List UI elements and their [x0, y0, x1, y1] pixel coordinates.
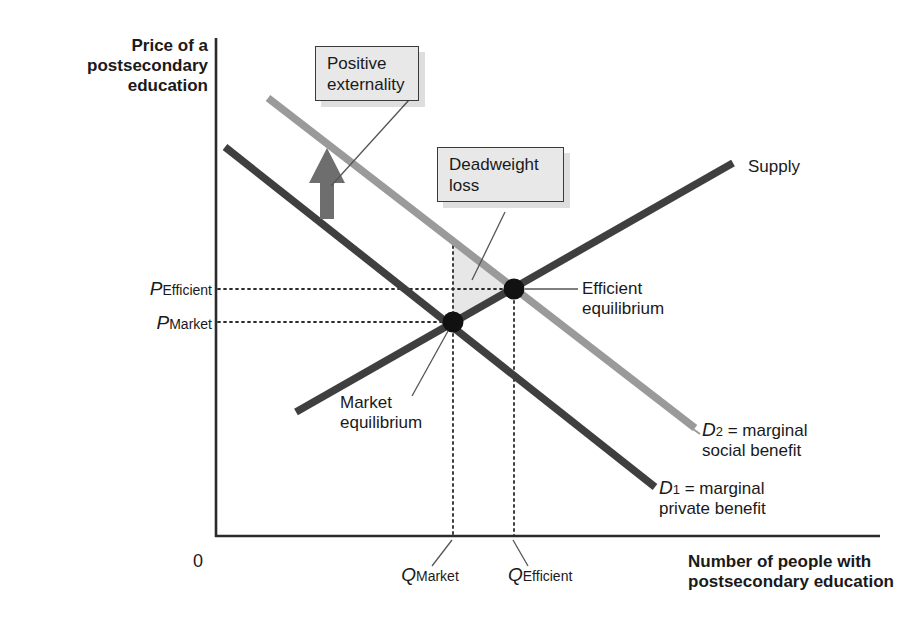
price-market-label: PMarket — [80, 312, 212, 334]
efficient-equilibrium-label: Efficient equilibrium — [582, 279, 752, 319]
price-efficient-label: PEfficient — [80, 278, 212, 300]
demand-private-subscript: 1 — [673, 482, 680, 497]
price-efficient-subscript: Efficient — [162, 282, 212, 298]
market-equilibrium-dot[interactable] — [443, 312, 464, 333]
quantity-market-symbol: Q — [401, 564, 416, 585]
quantity-market-leader — [432, 540, 452, 566]
positive-externality-arrow — [309, 148, 345, 219]
externality-diagram: Price of a postsecondary education Numbe… — [0, 0, 916, 620]
price-efficient-symbol: P — [150, 278, 163, 299]
quantity-market-subscript: Market — [416, 568, 459, 584]
origin-label: 0 — [193, 551, 203, 572]
quantity-efficient-symbol: Q — [508, 564, 523, 585]
quantity-efficient-label: QEfficient — [508, 564, 658, 586]
market-equilibrium-label: Market equilibrium — [340, 393, 500, 433]
demand-social-subscript: 2 — [716, 424, 723, 439]
positive-externality-callout: Positive externality — [315, 46, 419, 101]
quantity-market-label: QMarket — [360, 564, 500, 586]
deadweight-loss-callout: Deadweight loss — [437, 147, 564, 202]
demand-social-label: D2 = marginal social benefit — [702, 419, 902, 461]
quantity-efficient-leader — [513, 540, 528, 566]
y-axis-title: Price of a postsecondary education — [60, 36, 208, 96]
demand-private-symbol: D — [659, 477, 673, 498]
demand-private-label: D1 = marginal private benefit — [659, 477, 879, 519]
efficient-equilibrium-dot[interactable] — [504, 279, 525, 300]
quantity-efficient-subscript: Efficient — [523, 568, 573, 584]
demand-social-symbol: D — [702, 419, 716, 440]
supply-curve-label: Supply — [748, 157, 800, 177]
x-axis-title: Number of people with postsecondary educ… — [688, 552, 916, 592]
price-market-subscript: Market — [169, 316, 212, 332]
price-market-symbol: P — [157, 312, 170, 333]
